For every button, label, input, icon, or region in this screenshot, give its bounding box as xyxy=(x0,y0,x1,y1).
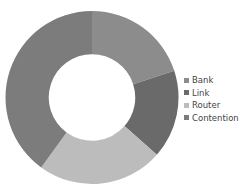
legend-item-router: Router xyxy=(184,99,241,112)
donut-chart-svg xyxy=(0,0,185,194)
legend-label: Contention xyxy=(192,113,239,123)
chart-legend: Bank Link Router Contention xyxy=(184,74,241,124)
legend-swatch-icon xyxy=(184,103,189,108)
legend-swatch-icon xyxy=(184,90,189,95)
legend-item-link: Link xyxy=(184,87,241,100)
donut-chart xyxy=(0,0,185,194)
legend-label: Bank xyxy=(192,75,213,85)
legend-label: Router xyxy=(192,100,220,110)
legend-swatch-icon xyxy=(184,115,189,120)
legend-swatch-icon xyxy=(184,78,189,83)
legend-item-bank: Bank xyxy=(184,74,241,87)
legend-label: Link xyxy=(192,88,209,98)
legend-item-contention: Contention xyxy=(184,112,241,125)
donut-segment-bank xyxy=(92,11,174,84)
